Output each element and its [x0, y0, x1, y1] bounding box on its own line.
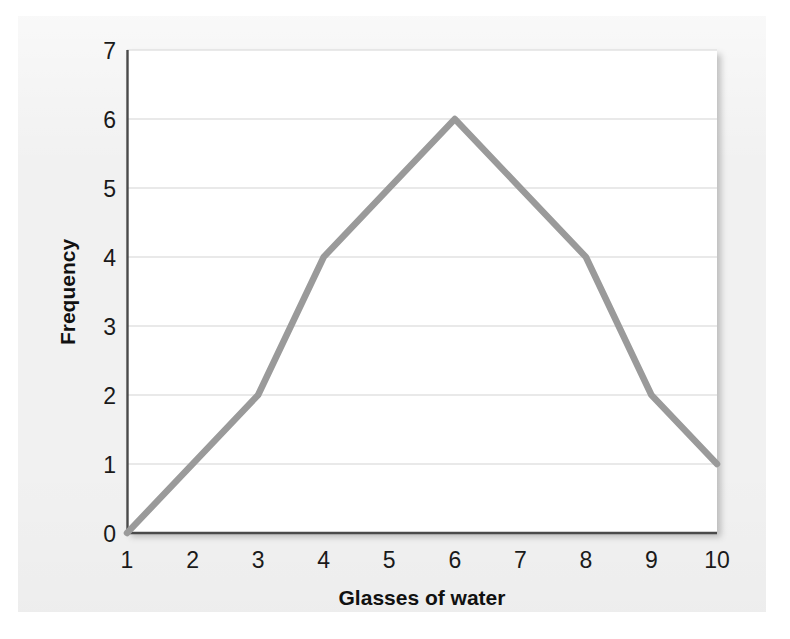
y-axis-tick-labels: 7 6 5 4 3 2 1 0: [103, 38, 116, 547]
x-tick-9: 9: [645, 547, 658, 573]
plot-area-background: [127, 50, 717, 533]
x-tick-1: 1: [121, 547, 134, 573]
x-tick-3: 3: [252, 547, 265, 573]
y-tick-3: 3: [103, 314, 116, 340]
y-tick-4: 4: [103, 245, 116, 271]
x-tick-8: 8: [580, 547, 593, 573]
y-tick-2: 2: [103, 383, 116, 409]
x-tick-10: 10: [704, 547, 730, 573]
x-axis-title: Glasses of water: [339, 586, 506, 609]
y-tick-6: 6: [103, 107, 116, 133]
y-tick-1: 1: [103, 452, 116, 478]
x-axis-tick-labels: 1 2 3 4 5 6 7 8 9 10: [121, 547, 730, 573]
figure-root: 7 6 5 4 3 2 1 0 1 2 3 4 5 6 7 8 9 10 Gla…: [0, 0, 790, 639]
y-tick-7: 7: [103, 38, 116, 64]
x-tick-2: 2: [186, 547, 199, 573]
x-tick-4: 4: [317, 547, 330, 573]
x-tick-7: 7: [514, 547, 527, 573]
frequency-polygon-chart: 7 6 5 4 3 2 1 0 1 2 3 4 5 6 7 8 9 10 Gla…: [0, 0, 790, 639]
x-tick-5: 5: [383, 547, 396, 573]
x-tick-6: 6: [448, 547, 461, 573]
y-tick-5: 5: [103, 176, 116, 202]
y-axis-title: Frequency: [56, 239, 79, 346]
y-tick-0: 0: [103, 521, 116, 547]
